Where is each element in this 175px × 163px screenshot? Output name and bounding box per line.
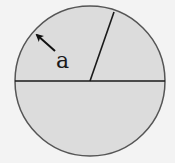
diagram-canvas: a	[0, 0, 175, 163]
circle-diagram: a	[0, 0, 175, 163]
radius-label: a	[56, 48, 69, 73]
